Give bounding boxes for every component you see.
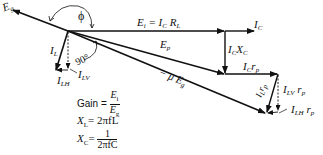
label-il-rp: ILrp bbox=[253, 82, 270, 101]
label-ilh-rp: ILH rp bbox=[290, 103, 315, 117]
label-90-degrees: 90° bbox=[73, 51, 90, 67]
label-ilv-rp: ILV rp bbox=[282, 83, 306, 97]
pointer-ilv bbox=[70, 69, 77, 73]
vector-ep bbox=[68, 31, 224, 74]
vector-eg bbox=[13, 10, 68, 31]
xl-equation: XL= 2πfL bbox=[77, 114, 118, 129]
label-ilv: ILV bbox=[77, 68, 90, 82]
phasor-diagram: Eg ϕ Ei = IC RL IC ICXC Ep ICrp − μ Eg I… bbox=[0, 0, 323, 155]
xc-equation: XC= 1 2πfC bbox=[77, 129, 117, 150]
label-ilh: ILH bbox=[56, 74, 71, 88]
vector-ilh-rp bbox=[268, 112, 278, 113]
vector-il-rp bbox=[267, 74, 278, 112]
label-ic: IC bbox=[253, 18, 263, 32]
pointer-ilh-rp bbox=[279, 109, 287, 113]
label-mu-eg: − μ Eg bbox=[157, 66, 189, 90]
label-ei: Ei = IC RL bbox=[136, 16, 180, 30]
xc-fraction: 1 2πfC bbox=[97, 129, 117, 150]
label-eg: Eg bbox=[0, 0, 15, 16]
gain-label: Gain = bbox=[77, 98, 107, 109]
label-il: IL bbox=[49, 44, 58, 58]
label-phi: ϕ bbox=[78, 9, 84, 23]
label-ep: Ep bbox=[159, 38, 171, 52]
label-ic-rp: ICrp bbox=[242, 60, 260, 74]
vector-il bbox=[56, 31, 68, 70]
label-ic-xc: ICXC bbox=[227, 43, 248, 57]
phi-arc bbox=[50, 6, 92, 28]
